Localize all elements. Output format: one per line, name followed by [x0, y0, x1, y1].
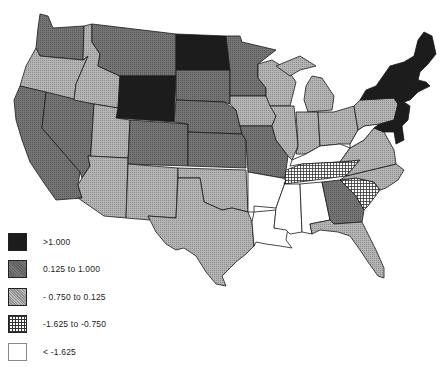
legend-item-neg0750-to-0125: - 0.750 to 0.125	[8, 283, 106, 311]
state-nd	[176, 34, 230, 70]
state-nm	[126, 164, 178, 220]
legend-label: - 0.750 to 0.125	[43, 292, 106, 302]
legend-item-lt-neg1625: < -1.625	[8, 338, 106, 366]
state-sd	[176, 70, 230, 104]
legend-label: 0.125 to 1.000	[43, 264, 100, 274]
legend-label: -1.625 to -0.750	[43, 319, 106, 329]
swatch-dark-stipple	[8, 260, 27, 278]
legend-label: >1.000	[43, 237, 70, 247]
state-wy	[116, 76, 176, 122]
swatch-crosshatch	[8, 315, 27, 333]
state-mt	[92, 24, 176, 76]
state-co	[128, 120, 188, 166]
state-ks	[188, 132, 246, 168]
swatch-solid-dark	[8, 233, 27, 251]
legend-label: < -1.625	[43, 347, 76, 357]
legend-item-neg1625-to-neg0750: -1.625 to -0.750	[8, 311, 106, 339]
legend-item-0125-to-1000: 0.125 to 1.000	[8, 256, 106, 284]
state-ny	[360, 62, 410, 104]
swatch-blank	[8, 343, 27, 361]
swatch-light-stipple	[8, 288, 27, 306]
legend: >1.000 0.125 to 1.000 - 0.750 to 0.125 -…	[8, 228, 106, 366]
state-fl	[310, 220, 384, 278]
legend-item-gt-1000: >1.000	[8, 228, 106, 256]
state-wa	[36, 14, 84, 60]
state-me	[414, 32, 436, 80]
